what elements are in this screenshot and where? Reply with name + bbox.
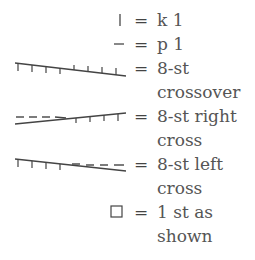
crossover-symbol-icon [12,56,130,80]
left-cross-symbol-icon [12,152,130,176]
knit-bar-icon [116,8,126,32]
legend-label: k 1 [157,11,184,29]
equals-sign: = [134,107,148,125]
equals-sign: = [134,203,148,221]
legend-label-continued: cross [157,131,202,149]
legend-label: 8-st right [157,107,237,125]
equals-sign: = [134,11,148,29]
legend-item-8-st-left-cross: = 8-st left cross [0,152,255,200]
equals-sign: = [134,35,148,53]
legend-label-continued: shown [157,227,212,245]
legend-item-purl: = p 1 [0,32,255,56]
legend-item-8-st-crossover: = 8-st crossover [0,56,255,104]
right-cross-symbol-icon [12,104,130,128]
legend-item-1-st-as-shown: = 1 st as shown [0,200,255,248]
legend-label: p 1 [157,35,184,53]
equals-sign: = [134,59,148,77]
legend-item-knit: = k 1 [0,8,255,32]
legend-label: 8-st left [157,155,223,173]
legend-label-continued: crossover [157,83,240,101]
legend-label: 8-st [157,59,189,77]
empty-square-icon [109,200,125,224]
legend-label: 1 st as [157,203,213,221]
purl-dash-icon [112,32,126,56]
legend-item-8-st-right-cross: = 8-st right cross [0,104,255,152]
legend-label-continued: cross [157,179,202,197]
equals-sign: = [134,155,148,173]
